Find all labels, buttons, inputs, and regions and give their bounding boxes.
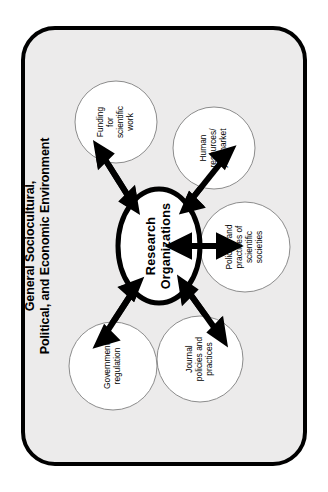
node-journal-policies-and-practices	[157, 316, 243, 402]
environment-diagram: General Sociocultural, Political, and Ec…	[0, 0, 328, 492]
shape-layer	[0, 0, 328, 492]
node-funding-for-scientific-work	[75, 81, 157, 163]
node-human-resources-job-market	[173, 107, 255, 189]
